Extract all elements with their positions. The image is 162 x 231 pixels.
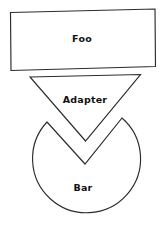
diagram-canvas: Foo Adapter Bar (0, 0, 162, 231)
label-bar: Bar (74, 182, 93, 193)
label-adapter: Adapter (63, 94, 108, 105)
adapter-pattern-diagram: Foo Adapter Bar (0, 0, 162, 231)
label-foo: Foo (72, 33, 92, 44)
